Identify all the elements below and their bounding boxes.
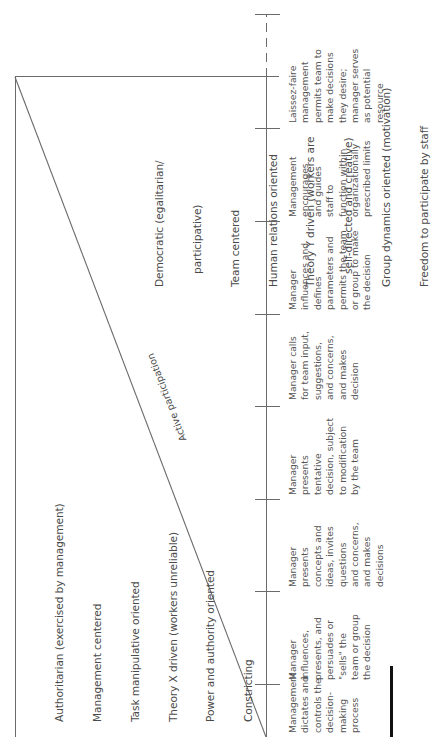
continuum-step-1: Management dictates and controls the dec… [287, 672, 361, 733]
continuum-step-4: Manager presents tentative decision, sub… [287, 418, 361, 495]
democratic-line: participative) [191, 88, 204, 287]
continuum-step-2: Manager influences, presents, and persua… [287, 614, 374, 680]
continuum-step-6: Manager influences and defines parameter… [287, 230, 374, 310]
authoritarian-line: Management centered [91, 503, 104, 722]
authoritarian-line: Power and authority oriented [204, 503, 217, 722]
authoritarian-line: Constricting [242, 503, 255, 722]
continuum-step-8: Laissez-faire management permits team to… [287, 49, 386, 123]
authoritarian-line: Authoritarian (exercised by management) [53, 503, 66, 722]
democratic-line: Freedom to participate by staff [418, 88, 431, 287]
authoritarian-description: Authoritarian (exercised by management) … [28, 503, 280, 722]
continuum-step-3: Manager presents concepts and ideas, inv… [287, 522, 386, 587]
continuum-step-7: Management encourages and guides staff t… [287, 141, 374, 217]
democratic-line: Team centered [229, 88, 242, 287]
democratic-description: Democratic (egalitarian/ participative) … [128, 88, 435, 287]
authoritarian-line: Theory X driven (workers unreliable) [167, 503, 180, 722]
democratic-line: Democratic (egalitarian/ [153, 88, 166, 287]
continuum-step-5: Manager calls for team input, suggestion… [287, 331, 361, 400]
democratic-line: Human relations oriented [267, 88, 280, 287]
authoritarian-line: Task manipulative oriented [129, 503, 142, 722]
page-edge-bar [390, 666, 393, 737]
